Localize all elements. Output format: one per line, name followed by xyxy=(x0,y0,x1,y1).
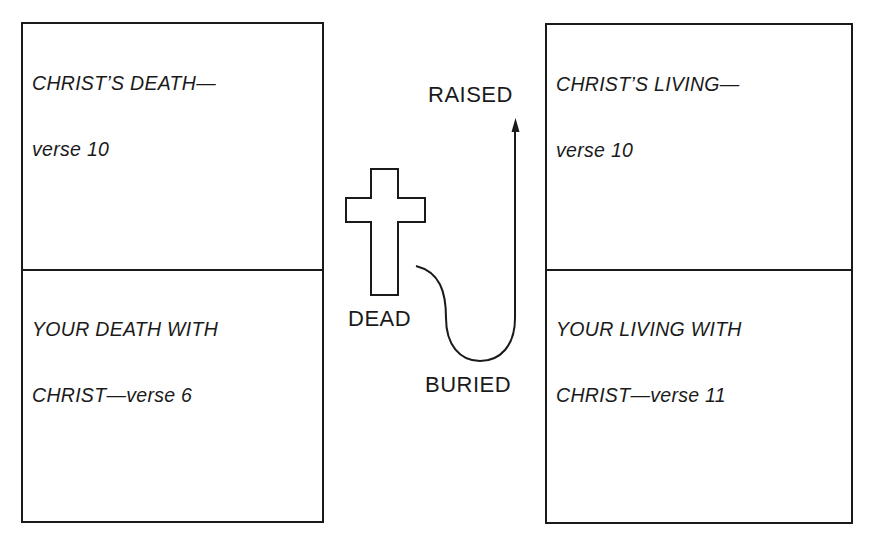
death-burial-resurrection-path xyxy=(416,128,515,361)
arrowhead-up-icon xyxy=(512,118,520,132)
buried-label: BURIED xyxy=(425,373,511,397)
raised-label: RAISED xyxy=(428,83,513,107)
cross-icon xyxy=(346,169,425,295)
dead-label: DEAD xyxy=(348,307,411,331)
